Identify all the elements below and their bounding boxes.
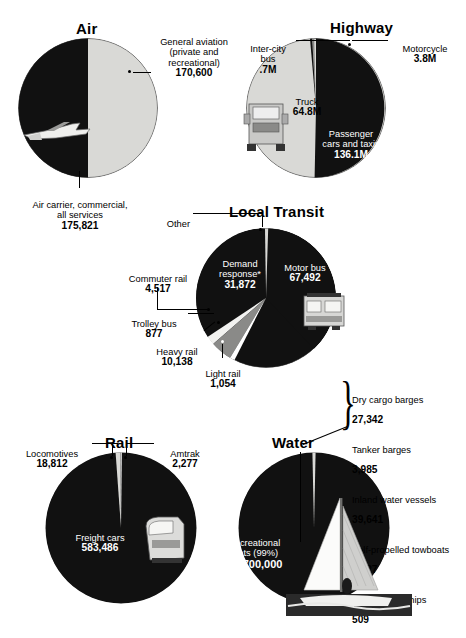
rail-locomotives-label: Locomotives 18,812: [12, 438, 92, 470]
sailboat-photo: [282, 494, 416, 618]
rail-leader-locomotives: [92, 443, 118, 444]
transit-demand-response-label: Demand response* 31,872: [208, 248, 272, 290]
air-general-aviation-label: General aviation (private and recreation…: [148, 26, 240, 79]
rail-leader-locomotives-v: [112, 443, 113, 456]
air-title: Air: [76, 20, 97, 37]
water-list-item: Tanker barges 3,985: [352, 435, 464, 475]
transit-leader-commuter-v: [157, 287, 158, 310]
air-leader-line-1: [133, 72, 151, 73]
train-icon: [140, 514, 188, 566]
bus-icon: [302, 292, 346, 332]
highway-title: Highway: [330, 19, 393, 36]
rail-leader-amtrak-v: [126, 443, 127, 456]
transit-leader-trolley: [188, 313, 214, 314]
air-carrier-label: Air carrier, commercial, all services 17…: [10, 189, 150, 231]
highway-leader-line-2: [352, 40, 388, 41]
rail-freight-cars-label: Freight cars 583,486: [58, 522, 142, 554]
rail-leader-dot-locomotives: [110, 456, 113, 459]
highway-leader-line-1: [296, 40, 350, 41]
transit-other-label: Other: [140, 208, 190, 229]
transit-leader-line-other-v: [262, 213, 263, 227]
highway-truck-label: Truck 64.8M: [276, 86, 338, 118]
transit-leader-light-v: [222, 344, 223, 358]
rail-amtrak-label: Amtrak 2,277: [152, 438, 218, 470]
transit-leader-dot-light: [221, 340, 224, 343]
transit-trolley-bus-label: Trolley bus 877: [118, 308, 190, 340]
transit-leader-dot-other: [259, 228, 262, 231]
rail-leader-dot-amtrak: [124, 456, 127, 459]
air-leader-line-2: [79, 171, 80, 188]
highway-motorcycle-label: Motorcycle 3.8M: [389, 33, 461, 65]
transit-light-rail-label: Light rail 1,054: [192, 358, 254, 390]
transit-leader-line-other: [193, 213, 263, 214]
air-leader-dot-1: [128, 70, 131, 73]
airplane-icon: [20, 118, 94, 144]
highway-intercity-bus-label: Inter-city bus .7M: [240, 33, 296, 75]
rail-leader-amtrak: [126, 443, 154, 444]
highway-passenger-label: Passenger cars and taxis 136.1M: [310, 118, 392, 160]
transit-leader-dot-heavy: [217, 321, 220, 324]
transit-leader-dot-commuter: [207, 308, 210, 311]
air-pie: [18, 38, 158, 178]
highway-leader-dot-1: [348, 43, 351, 46]
transit-title: Local Transit: [229, 203, 324, 220]
water-list-item: Dry cargo barges 27,342: [352, 385, 464, 425]
transit-motor-bus-label: Motor bus 67,492: [276, 252, 334, 284]
